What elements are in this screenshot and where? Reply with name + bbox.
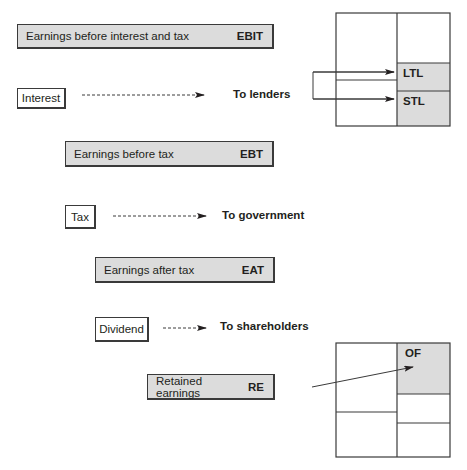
tax-destination: To government — [222, 209, 304, 221]
retained-earnings-box: Retained earnings RE — [147, 374, 275, 400]
eat-code: EAT — [242, 264, 264, 276]
interest-destination: To lenders — [233, 88, 290, 100]
ebt-code: EBT — [240, 148, 263, 160]
tax-label: Tax — [71, 211, 89, 223]
tax-box: Tax — [65, 205, 96, 229]
ebit-box: Earnings before interest and tax EBIT — [17, 24, 274, 49]
of-label: OF — [405, 347, 421, 359]
retained-earnings-code: RE — [248, 381, 264, 393]
retained-earnings-label: Retained earnings — [156, 375, 230, 399]
eat-label: Earnings after tax — [104, 264, 194, 276]
dividend-box: Dividend — [95, 317, 149, 342]
ebt-box: Earnings before tax EBT — [65, 141, 274, 167]
balance-sheet-top — [336, 13, 450, 126]
interest-box: Interest — [17, 88, 66, 109]
ebit-code: EBIT — [237, 30, 263, 42]
ltl-label: LTL — [403, 67, 423, 79]
dividend-destination: To shareholders — [220, 320, 309, 332]
balance-sheet-bottom — [336, 343, 450, 457]
stl-label: STL — [403, 95, 425, 107]
ebt-label: Earnings before tax — [74, 148, 174, 160]
lender-bracket-arrows — [313, 72, 394, 99]
ebit-label: Earnings before interest and tax — [26, 30, 189, 42]
dividend-label: Dividend — [99, 323, 144, 335]
eat-box: Earnings after tax EAT — [95, 257, 275, 283]
interest-label: Interest — [22, 92, 60, 104]
